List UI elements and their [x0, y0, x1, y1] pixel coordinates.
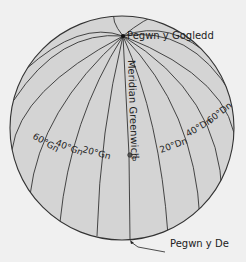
origin-label: 0°	[132, 155, 140, 163]
south-pole-arrow	[131, 242, 165, 252]
globe-diagram: Pegwn y Gogledd Pegwn y De Meridian Gree…	[0, 0, 246, 262]
north-pole-dot	[121, 34, 125, 38]
north-pole-label: Pegwn y Gogledd	[127, 30, 214, 41]
globe-svg: Pegwn y Gogledd Pegwn y De Meridian Gree…	[0, 0, 246, 262]
south-pole-label: Pegwn y De	[170, 238, 229, 249]
